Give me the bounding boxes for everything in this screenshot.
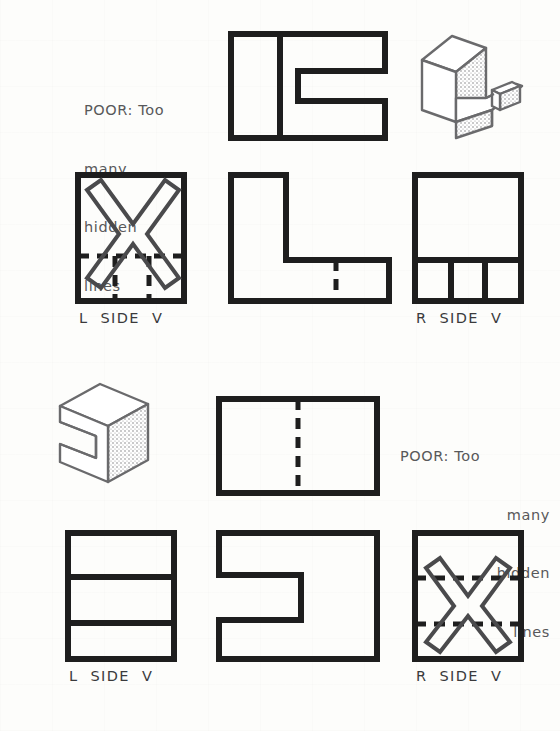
outline [231,175,389,301]
top-view-upper-drawing [228,31,388,141]
outline [231,34,385,138]
reject-x-mark [426,558,510,652]
label-l-side-v-lower: L SIDE V [69,668,153,684]
top-view-lower [216,396,380,496]
right-side-view-upper [412,172,524,304]
top-view-lower-drawing [216,396,380,496]
note-line: POOR: Too [84,101,164,121]
label-r-side-v-lower: R SIDE V [416,668,502,684]
note-line: POOR: Too [400,447,550,467]
isometric-pictorial-lower [52,378,182,498]
isometric-lower-drawing [52,378,182,498]
note-line: many [400,506,550,526]
front-view-upper [228,172,392,304]
isometric-pictorial-upper [408,26,532,146]
right-side-view-lower-drawing [412,530,524,662]
front-view-lower [216,530,380,662]
front-view-lower-drawing [216,530,380,662]
label-r-side-v-upper: R SIDE V [416,310,502,326]
left-side-view-upper [75,172,187,304]
figure-page: POOR: Too many hidden lines [0,0,560,731]
left-side-view-upper-drawing [75,172,187,304]
front-view-upper-drawing [228,172,392,304]
right-side-view-lower [412,530,524,662]
face-tab-side [492,90,500,110]
outline [68,533,174,659]
face-left-upright [422,60,456,122]
outline-notched [219,533,377,659]
left-side-view-lower [65,530,177,662]
outline [415,175,521,301]
reject-x-mark [87,180,179,288]
left-side-view-lower-drawing [65,530,177,662]
isometric-upper-drawing [408,26,532,146]
top-view-upper [228,31,388,141]
right-side-view-upper-drawing [412,172,524,304]
label-l-side-v-upper: L SIDE V [79,310,163,326]
